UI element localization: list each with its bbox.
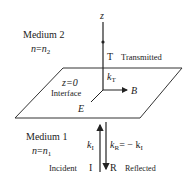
interface-label: Interface xyxy=(51,88,81,98)
medium1-index: n=n1 xyxy=(32,145,52,158)
k-incident: kI xyxy=(87,139,94,152)
transmitted-point xyxy=(101,40,104,43)
medium2-title: Medium 2 xyxy=(23,29,64,40)
incident-symbol: I xyxy=(89,162,92,173)
reflection-diagram: z B E Medium 2 n=n2 T Transmitted kT z=0… xyxy=(0,0,189,182)
z-axis-label: z xyxy=(99,10,104,21)
incident-label: Incident xyxy=(49,163,77,173)
reflected-label: Reflected xyxy=(125,164,156,173)
medium1-title: Medium 1 xyxy=(26,131,67,142)
k-transmitted: kT xyxy=(107,71,116,84)
b-field-label: B xyxy=(131,85,137,96)
medium2-index: n=n2 xyxy=(31,43,51,56)
interface-plane xyxy=(15,68,182,118)
e-field-line xyxy=(91,90,103,102)
transmitted-symbol: T xyxy=(107,51,113,62)
transmitted-label: Transmitted xyxy=(121,52,163,62)
reflected-symbol: R xyxy=(110,162,117,173)
interface-equation: z=0 xyxy=(61,77,78,88)
k-reflected-relation: kR= − kI xyxy=(110,139,143,152)
e-field-label: E xyxy=(77,103,84,114)
